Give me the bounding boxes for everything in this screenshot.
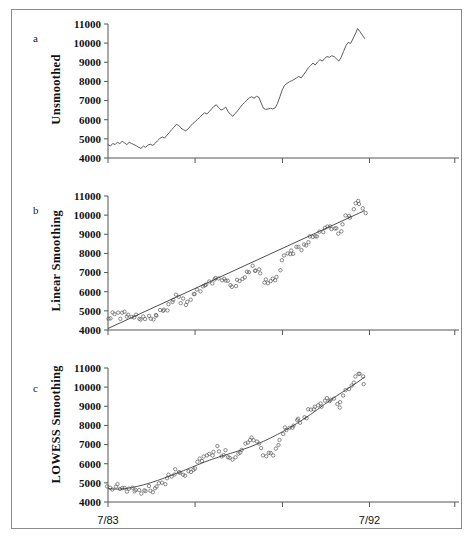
data-point-marker — [361, 207, 364, 210]
data-point-marker — [265, 455, 268, 458]
data-point-marker — [116, 311, 119, 314]
y-tick-label: 9000 — [79, 400, 102, 412]
lowess-fit-curve — [108, 377, 365, 489]
y-tick-label: 4000 — [79, 496, 102, 508]
data-point-marker — [211, 454, 214, 457]
data-point-marker — [143, 317, 146, 320]
y-tick-label: 6000 — [79, 114, 102, 126]
data-point-marker — [211, 282, 214, 285]
data-point-marker — [217, 450, 220, 453]
data-point-marker — [338, 406, 341, 409]
data-point-marker — [274, 447, 277, 450]
y-tick-label: 5000 — [79, 133, 102, 145]
data-point-marker — [282, 254, 285, 257]
data-point-marker — [344, 214, 347, 217]
data-point-marker — [224, 448, 227, 451]
y-tick-label: 6000 — [79, 286, 102, 298]
y-tick-label: 6000 — [79, 458, 102, 470]
data-point-marker — [264, 278, 267, 281]
data-point-marker — [338, 400, 341, 403]
data-point-marker — [166, 309, 169, 312]
panel-a: a Unsmoothed 110001000090008000700060005… — [12, 10, 463, 182]
data-point-marker — [316, 404, 319, 407]
data-point-marker — [341, 223, 344, 226]
data-point-marker — [364, 211, 367, 214]
x-tick-label: 7/83 — [97, 514, 118, 526]
data-point-marker — [278, 438, 281, 441]
data-point-marker — [174, 468, 177, 471]
data-point-marker — [304, 244, 307, 247]
y-tick-label: 9000 — [79, 56, 102, 68]
data-point-marker — [216, 444, 219, 447]
data-point-marker — [337, 232, 340, 235]
data-point-marker — [340, 230, 343, 233]
data-point-marker — [255, 440, 258, 443]
y-tick-label: 8000 — [79, 75, 102, 87]
data-point-marker — [279, 269, 282, 272]
data-point-marker — [147, 484, 150, 487]
data-point-marker — [259, 446, 262, 449]
y-tick-label: 7000 — [79, 266, 102, 278]
data-point-marker — [282, 432, 285, 435]
data-point-marker — [226, 279, 229, 282]
data-point-marker — [234, 284, 237, 287]
unsmoothed-series-line — [108, 29, 365, 149]
y-tick-label: 8000 — [79, 247, 102, 259]
y-tick-label: 8000 — [79, 419, 102, 431]
data-point-marker — [234, 456, 237, 459]
data-point-marker — [171, 300, 174, 303]
y-tick-label: 10000 — [74, 381, 102, 393]
y-tick-label: 5000 — [79, 477, 102, 489]
data-point-marker — [162, 308, 165, 311]
data-point-marker — [319, 402, 322, 405]
data-point-marker — [212, 450, 215, 453]
data-point-marker — [300, 248, 303, 251]
data-point-marker — [354, 375, 357, 378]
panel-c-plot: 11000100009000800070006000500040007/837/… — [12, 354, 463, 530]
data-point-marker — [119, 317, 122, 320]
y-tick-label: 10000 — [74, 37, 102, 49]
data-point-marker — [289, 249, 292, 252]
data-point-marker — [280, 259, 283, 262]
data-point-marker — [199, 290, 202, 293]
data-point-marker — [231, 458, 234, 461]
y-tick-label: 10000 — [74, 209, 102, 221]
x-tick-label: 7/92 — [359, 514, 380, 526]
data-point-marker — [307, 241, 310, 244]
data-point-marker — [277, 443, 280, 446]
y-tick-label: 9000 — [79, 228, 102, 240]
data-point-marker — [322, 230, 325, 233]
data-point-marker — [189, 298, 192, 301]
figure-frame: a Unsmoothed 110001000090008000700060005… — [11, 9, 462, 529]
data-point-marker — [362, 382, 365, 385]
data-point-marker — [352, 207, 355, 210]
y-tick-label: 11000 — [74, 190, 101, 202]
panel-b: b Linear Smoothing 110001000090008000700… — [12, 182, 463, 354]
y-tick-label: 11000 — [74, 362, 101, 374]
data-point-marker — [302, 243, 305, 246]
data-point-marker — [202, 455, 205, 458]
data-point-marker — [164, 482, 167, 485]
data-point-marker — [341, 394, 344, 397]
data-point-marker — [252, 439, 255, 442]
data-point-marker — [258, 272, 261, 275]
data-point-marker — [261, 454, 264, 457]
data-point-marker — [257, 268, 260, 271]
data-point-marker — [275, 275, 278, 278]
y-tick-label: 4000 — [79, 152, 102, 164]
data-point-marker — [140, 492, 143, 495]
data-point-marker — [251, 264, 254, 267]
linear-fit-line — [108, 211, 365, 329]
panel-a-plot: 1100010000900080007000600050004000 — [12, 10, 463, 182]
y-tick-label: 4000 — [79, 324, 102, 336]
data-point-marker — [167, 302, 170, 305]
y-tick-label: 7000 — [79, 94, 102, 106]
data-point-marker — [325, 396, 328, 399]
data-point-marker — [186, 300, 189, 303]
y-tick-label: 5000 — [79, 305, 102, 317]
y-tick-label: 7000 — [79, 438, 102, 450]
panel-c: c LOWESS Smoothing 110001000090008000700… — [12, 354, 463, 530]
data-point-marker — [272, 454, 275, 457]
y-tick-label: 11000 — [74, 18, 101, 30]
data-point-marker — [179, 301, 182, 304]
